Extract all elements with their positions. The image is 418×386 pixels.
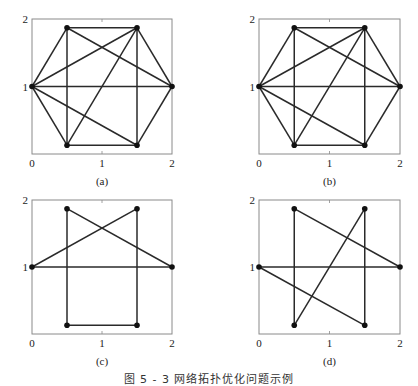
- x-tick-label: 0: [29, 337, 35, 349]
- graph-edge: [137, 87, 172, 146]
- graph-node: [134, 322, 140, 328]
- graph-node: [256, 264, 262, 270]
- panel-d: 01212(d): [250, 194, 403, 368]
- graph-node: [397, 84, 403, 90]
- graph-edge: [294, 209, 400, 267]
- x-tick-label: 2: [169, 157, 175, 169]
- x-tick-label: 0: [29, 157, 35, 169]
- subfigure-label: (c): [96, 355, 109, 368]
- x-tick-label: 0: [256, 337, 262, 349]
- graph-edge: [67, 209, 172, 267]
- subfigure-label: (a): [96, 175, 109, 188]
- y-tick-label: 2: [250, 13, 256, 25]
- graph-node: [134, 142, 140, 148]
- panel-a: 01212(a): [23, 13, 175, 188]
- y-tick-label: 1: [23, 261, 29, 273]
- x-tick-label: 1: [99, 337, 105, 349]
- graph-node: [362, 206, 368, 212]
- graph-edge: [32, 28, 137, 87]
- graph-node: [169, 84, 175, 90]
- y-tick-label: 1: [250, 81, 256, 93]
- subfigure-label: (b): [323, 175, 336, 188]
- y-tick-label: 2: [250, 194, 256, 206]
- y-tick-label: 2: [23, 194, 29, 206]
- graph-node: [134, 25, 140, 31]
- graph-node: [134, 206, 140, 212]
- graph-edge: [259, 267, 365, 325]
- graph-node: [256, 84, 262, 90]
- x-tick-label: 1: [99, 157, 105, 169]
- y-tick-label: 2: [23, 13, 29, 25]
- x-tick-label: 2: [397, 337, 403, 349]
- figure-caption: 图 5 - 3 网络拓扑优化问题示例: [0, 370, 418, 386]
- graph-node: [64, 25, 70, 31]
- x-tick-label: 1: [327, 157, 333, 169]
- graph-edge: [32, 87, 67, 146]
- graph-edge: [259, 87, 365, 146]
- graph-edge: [32, 87, 137, 146]
- y-tick-label: 1: [23, 81, 29, 93]
- graph-node: [291, 322, 297, 328]
- graph-node: [291, 142, 297, 148]
- x-tick-label: 0: [256, 157, 262, 169]
- graph-node: [291, 206, 297, 212]
- graph-node: [362, 142, 368, 148]
- graph-edge: [259, 28, 365, 87]
- graph-edge: [137, 28, 172, 87]
- graph-edge: [365, 87, 400, 146]
- graph-node: [64, 142, 70, 148]
- panel-b: 01212(b): [250, 13, 403, 188]
- graph-node: [169, 264, 175, 270]
- subfigure-label: (d): [323, 355, 336, 368]
- graph-edge: [259, 87, 294, 146]
- graph-edge: [365, 28, 400, 87]
- graph-node: [64, 322, 70, 328]
- graph-node: [291, 25, 297, 31]
- x-tick-label: 1: [327, 337, 333, 349]
- graph-node: [29, 264, 35, 270]
- graph-node: [362, 25, 368, 31]
- panel-c: 01212(c): [23, 194, 175, 368]
- x-tick-label: 2: [169, 337, 175, 349]
- graph-edge: [32, 28, 67, 87]
- y-tick-label: 1: [250, 261, 256, 273]
- graph-edge: [32, 209, 137, 267]
- x-tick-label: 2: [397, 157, 403, 169]
- graph-node: [29, 84, 35, 90]
- graph-node: [64, 206, 70, 212]
- graph-node: [397, 264, 403, 270]
- graph-edge: [259, 28, 294, 87]
- graph-node: [362, 322, 368, 328]
